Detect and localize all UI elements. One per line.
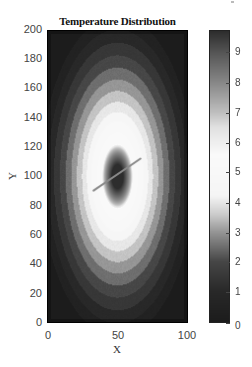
y-tick-label: 20: [30, 288, 42, 299]
colorbar-tick-label: 1: [235, 286, 241, 297]
colorbar-tick-mark: [226, 262, 230, 263]
heatmap-plot-area: [47, 30, 188, 323]
colorbar-tick-mark: [226, 143, 230, 144]
y-axis-label: Y: [6, 172, 18, 180]
colorbar-canvas: [210, 31, 229, 322]
colorbar-tick-label: 3: [235, 227, 241, 238]
y-tick-label: 120: [24, 141, 42, 152]
y-tick-label: 180: [24, 53, 42, 64]
colorbar-tick-label: 9: [235, 46, 241, 57]
colorbar-tick-label: 7: [235, 107, 241, 118]
y-tick-label: 200: [24, 24, 42, 35]
colorbar-tick-mark: [226, 292, 230, 293]
colorbar-tick-mark: [226, 233, 230, 234]
y-tick-label: 40: [30, 258, 42, 269]
colorbar-tick-label: 8: [235, 77, 241, 88]
colorbar-tick-mark: [226, 83, 230, 84]
colorbar-tick-mark: [226, 323, 230, 324]
colorbar-tick-mark: [226, 172, 230, 173]
colorbar-tick-mark: [226, 52, 230, 53]
colorbar-tick-label: 0: [235, 320, 241, 331]
colorbar-tick-label: 6: [235, 137, 241, 148]
x-tick-label: 100: [178, 329, 196, 341]
y-tick-label: 140: [24, 112, 42, 123]
colorbar-tick-label: 4: [235, 197, 241, 208]
heatmap-canvas: [48, 31, 187, 322]
x-tick-label: 50: [112, 329, 124, 341]
y-tick-label: 60: [30, 229, 42, 240]
y-tick-label: 80: [30, 200, 42, 211]
colorbar-tick-mark: [226, 203, 230, 204]
colorbar-tick-label: 5: [235, 166, 241, 177]
x-tick-label: 0: [45, 329, 51, 341]
colorbar-tick-mark: [226, 113, 230, 114]
colorbar-tick-label: 2: [235, 256, 241, 267]
corner-artifact: [231, 1, 234, 3]
x-axis-label: X: [113, 343, 121, 355]
chart-title: Temperature Distribution: [47, 15, 188, 27]
y-tick-label: 100: [24, 170, 42, 181]
y-tick-label: 160: [24, 82, 42, 93]
colorbar: [209, 30, 230, 323]
y-tick-label: 0: [36, 317, 42, 328]
